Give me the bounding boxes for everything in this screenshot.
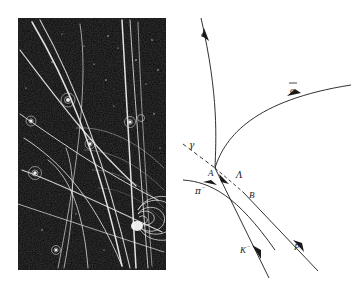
gamma-track <box>183 144 215 168</box>
label-kaon-superscript: − <box>247 243 251 249</box>
label-kaon-group: K − <box>239 243 251 255</box>
label-proton: P <box>293 242 300 252</box>
photograph-canvas <box>18 18 166 270</box>
label-gamma: γ <box>189 140 195 150</box>
label-vertex-a: A <box>207 168 214 178</box>
label-pion: π <box>194 186 202 196</box>
bubble-chamber-photograph <box>18 18 166 270</box>
kaon-track <box>215 168 269 278</box>
label-positron: e <box>290 85 294 95</box>
schematic-track-diagram: e e γ A Λ B π − K − P <box>177 0 354 281</box>
positron-track <box>215 85 351 168</box>
label-lambda: Λ <box>235 170 243 180</box>
figure-container: e e γ A Λ B π − K − P <box>0 0 354 281</box>
label-electron: e <box>201 29 205 39</box>
diagram-canvas: e e γ A Λ B π − K − P <box>177 0 354 281</box>
label-vertex-b: B <box>249 190 255 200</box>
kaon-arrow-icon <box>252 245 261 259</box>
label-kaon: K <box>239 245 247 255</box>
photo-spiral-core <box>131 221 143 231</box>
label-pion-group: π − <box>194 184 206 196</box>
proton-track <box>243 192 318 271</box>
